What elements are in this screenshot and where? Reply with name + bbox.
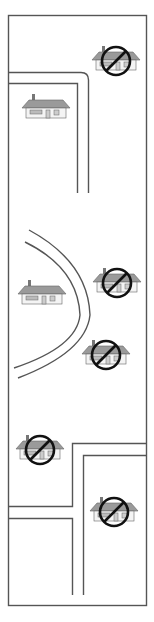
house-icon: [16, 435, 64, 464]
site-plan: [0, 0, 154, 622]
house-icon: [22, 94, 70, 118]
house-icon: [92, 46, 140, 75]
house-icon: [18, 280, 66, 304]
road-top-outer: [9, 73, 89, 194]
house-icon: [93, 268, 141, 297]
road-bottom-left: [9, 519, 73, 596]
house-icon: [90, 497, 138, 526]
house-icon: [82, 340, 130, 369]
